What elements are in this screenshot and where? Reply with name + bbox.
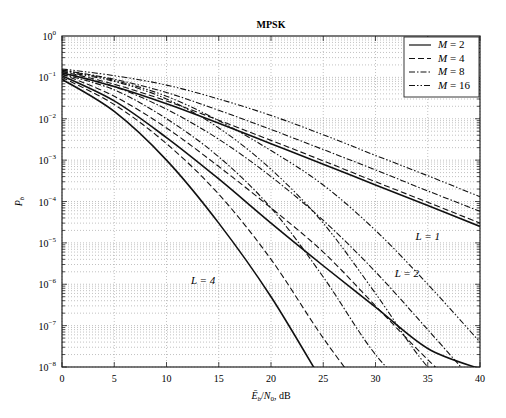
y-tick-label: 10−3 <box>39 153 57 166</box>
x-tick-label: 30 <box>371 373 381 384</box>
legend-entry: M = 2 <box>437 38 464 50</box>
x-tick-label: 35 <box>423 373 433 384</box>
x-tick-label: 15 <box>214 373 224 384</box>
legend-entry: M = 8 <box>437 65 465 77</box>
legend: M = 2M = 4M = 8M = 16 <box>404 37 479 97</box>
series-line <box>62 70 480 342</box>
y-tick-label: 10−6 <box>39 277 57 290</box>
x-tick-label: 40 <box>475 373 485 384</box>
y-tick-label: 10−2 <box>39 112 57 125</box>
series-line <box>62 71 480 412</box>
legend-entry: M = 4 <box>437 52 465 64</box>
series-line <box>62 74 428 408</box>
y-tick-label: 10−8 <box>39 360 57 373</box>
x-tick-label: 0 <box>60 373 65 384</box>
mpsk-ber-chart: 051015202530354010010−110−210−310−410−51… <box>0 0 506 418</box>
y-tick-label: 10−4 <box>39 195 57 208</box>
x-tick-label: 20 <box>266 373 276 384</box>
legend-entry: M = 16 <box>437 79 470 91</box>
y-tick-label: 10−5 <box>39 236 57 249</box>
y-tick-label: 100 <box>43 29 57 42</box>
x-tick-label: 25 <box>318 373 328 384</box>
x-tick-label: 10 <box>162 373 172 384</box>
x-axis-label: Ēb/N0, dB <box>250 390 291 403</box>
chart-title: MPSK <box>257 19 286 30</box>
y-tick-label: 10−1 <box>39 70 57 83</box>
y-axis-label: Pb <box>13 196 26 207</box>
curve-annotation: L = 1 <box>415 230 440 242</box>
curve-annotation: L = 2 <box>394 267 420 279</box>
curve-annotation: L = 4 <box>190 274 216 286</box>
y-tick-label: 10−7 <box>39 319 57 332</box>
x-tick-label: 5 <box>112 373 117 384</box>
